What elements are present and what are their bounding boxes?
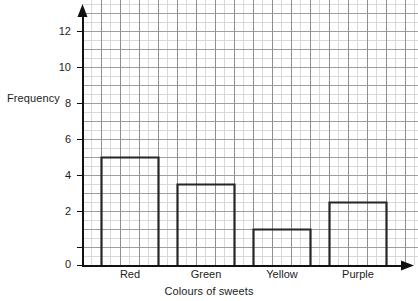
y-tick-label-6: 6 [49,133,71,145]
y-tick-label-4: 4 [49,169,71,181]
y-tick-label-2: 2 [49,205,71,217]
x-tick-label-green: Green [176,268,236,280]
y-axis [78,4,88,265]
x-axis-arrow [401,261,414,271]
x-tick-label-yellow: Yellow [252,268,312,280]
x-axis-title: Colours of sweets [0,285,418,297]
y-tick-label-10: 10 [49,61,71,73]
y-tick-label-0: 0 [49,258,71,270]
bar-chart: Frequency Colours of sweets 12 10 8 6 4 … [0,0,418,301]
grid-major-vertical [102,0,406,265]
x-tick-label-purple: Purple [328,268,388,280]
y-tick-label-8: 8 [49,97,71,109]
chart-canvas [0,0,418,301]
x-tick-label-red: Red [100,268,160,280]
y-axis-arrow [78,4,88,17]
y-tick-label-12: 12 [49,25,71,37]
